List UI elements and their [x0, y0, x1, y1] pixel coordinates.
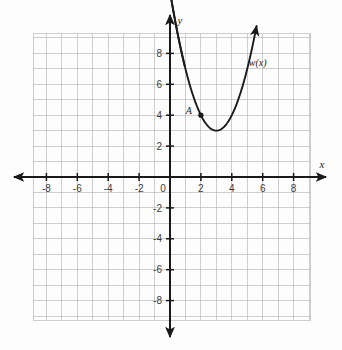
- y-axis-name-label: y: [177, 14, 183, 26]
- x-tick-label: 8: [291, 183, 297, 194]
- x-tick-label: -6: [73, 183, 82, 194]
- x-axis-name-label: x: [319, 158, 325, 170]
- y-tick-label: 4: [156, 110, 162, 121]
- x-tick-label: 2: [198, 183, 204, 194]
- y-tick-label: -2: [153, 203, 162, 214]
- x-tick-label: 4: [229, 183, 235, 194]
- y-tick-label: -4: [153, 233, 162, 244]
- x-tick-label: 6: [260, 183, 266, 194]
- y-tick-label: 6: [156, 79, 162, 90]
- y-tick-label: 2: [156, 141, 162, 152]
- point-label-a: A: [185, 105, 193, 116]
- x-tick-label: -8: [42, 183, 51, 194]
- figure-background: [0, 0, 342, 350]
- function-label-wx: w(x): [249, 57, 267, 69]
- x-tick-label: -2: [135, 183, 144, 194]
- x-tick-label: -4: [104, 183, 113, 194]
- y-tick-label: 8: [156, 48, 162, 59]
- y-tick-label: -6: [153, 264, 162, 275]
- origin-label: 0: [160, 183, 166, 194]
- point-marker-a: [198, 113, 203, 118]
- y-tick-label: -8: [153, 295, 162, 306]
- coordinate-plane-svg: -8-6-4-22468 8642-2-4-6-8 0 x y w(x) A: [0, 0, 342, 350]
- graph-figure: -8-6-4-22468 8642-2-4-6-8 0 x y w(x) A: [0, 0, 342, 350]
